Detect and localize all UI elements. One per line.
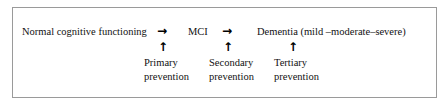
arrow-up-icon-tertiary-prevention: ↑	[288, 41, 298, 53]
prevention-label-secondary-line1: Secondary	[209, 56, 254, 70]
prevention-label-secondary: Secondary prevention	[209, 56, 254, 83]
prevention-label-tertiary-line1: Tertiary	[274, 56, 319, 70]
prevention-label-primary-line1: Primary	[144, 56, 189, 70]
stage-node-dementia: Dementia (mild –moderate–severe)	[257, 26, 406, 38]
prevention-label-primary: Primary prevention	[144, 56, 189, 83]
prevention-label-tertiary: Tertiary prevention	[274, 56, 319, 83]
arrow-up-icon-primary-prevention: ↑	[158, 41, 168, 53]
cognitive-continuum-row: Normal cognitive functioning → MCI → Dem…	[13, 8, 436, 40]
stage-node-mci: MCI	[188, 26, 208, 38]
prevention-label-tertiary-line2: prevention	[274, 70, 319, 84]
arrow-right-icon-normal-to-mci: →	[157, 25, 167, 37]
stage-node-normal-cognitive-functioning: Normal cognitive functioning	[22, 26, 147, 38]
prevention-label-secondary-line2: prevention	[209, 70, 254, 84]
diagram-frame: Normal cognitive functioning → MCI → Dem…	[12, 7, 437, 98]
arrow-right-icon-mci-to-dementia: →	[222, 25, 232, 37]
prevention-label-primary-line2: prevention	[144, 70, 189, 84]
arrow-up-icon-secondary-prevention: ↑	[223, 41, 233, 53]
